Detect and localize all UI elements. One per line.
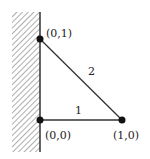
node-label-0-0: (0,0) — [45, 129, 71, 142]
member-label-2: 2 — [88, 65, 95, 78]
truss-diagram: (0,1) (0,0) (1,0) 2 1 — [0, 0, 150, 159]
node-0-0 — [37, 117, 44, 124]
node-0-1 — [37, 36, 44, 43]
member-label-1: 1 — [75, 104, 82, 117]
node-1-0 — [119, 117, 126, 124]
node-label-0-1: (0,1) — [46, 27, 72, 40]
node-label-1-0: (1,0) — [113, 129, 139, 142]
fixed-wall-hatch — [12, 12, 40, 152]
